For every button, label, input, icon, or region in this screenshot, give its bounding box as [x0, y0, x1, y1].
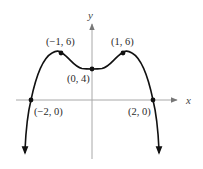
- graph-canvas: x y (−1, 6) (1, 6) (0, 4) (−2, 0) (2, 0): [0, 0, 203, 169]
- point-0-4: [90, 67, 95, 72]
- label-neg1-6: (−1, 6): [46, 36, 75, 48]
- point-2-0: [151, 98, 156, 103]
- y-axis-label: y: [87, 9, 93, 21]
- label-0-4: (0, 4): [67, 73, 90, 85]
- point-neg2-0: [29, 98, 34, 103]
- label-1-6: (1, 6): [111, 36, 134, 48]
- x-axis-label: x: [185, 94, 191, 106]
- point-neg1-6: [59, 51, 64, 56]
- label-neg2-0: (−2, 0): [34, 106, 63, 118]
- label-2-0: (2, 0): [128, 106, 151, 118]
- point-1-6: [121, 51, 126, 56]
